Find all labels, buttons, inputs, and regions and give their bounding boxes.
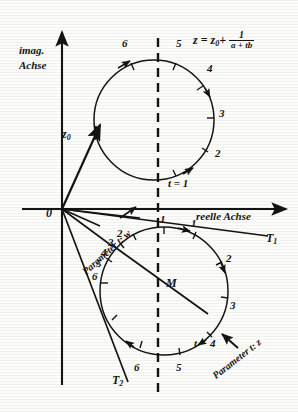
z0-label-subscript: 0	[67, 133, 71, 142]
formula-expression: z = z0+ 1 a + tb	[193, 30, 254, 50]
formula-fraction: 1 a + tb	[229, 30, 254, 50]
upper-tick-4: 4	[207, 63, 213, 74]
lower-tick-5-bottom: 5	[176, 362, 182, 373]
lower-tick-t-marker: t	[194, 338, 197, 349]
upper-tick-5: 5	[176, 38, 182, 49]
lower-tick-6-left: 6	[92, 271, 98, 282]
lower-tick-4-right: 4	[210, 338, 216, 349]
lower-tick-2-right: 2	[226, 253, 232, 264]
formula-equals: =	[201, 33, 208, 47]
upper-tick-6: 6	[122, 38, 128, 49]
tangent-t2-label: T2	[112, 374, 123, 388]
origin-label: 0	[46, 207, 52, 219]
upper-circle	[94, 60, 214, 180]
lower-tick-6-bottom: 6	[134, 362, 140, 373]
t2-label-subscript: 2	[119, 379, 123, 388]
t1-label-subscript: 1	[273, 237, 277, 246]
lower-tick-1b: 1	[191, 218, 197, 229]
parameter-z-arrow	[222, 334, 238, 348]
upper-tick-3: 3	[219, 108, 225, 119]
upper-circle-ticks	[131, 63, 214, 176]
formula-denominator: a + tb	[229, 41, 254, 50]
real-axis-label: reelle Achse	[196, 211, 251, 222]
formula-lhs: z	[193, 33, 198, 47]
formula-plus: +	[219, 33, 226, 47]
imaginary-axis-label-line2: Achse	[19, 60, 47, 71]
upper-tick-2: 2	[215, 148, 221, 159]
z0-vector-label: z0	[62, 128, 71, 142]
imaginary-axis-label-line1: imag.	[19, 45, 44, 56]
lower-tick-3-right: 3	[230, 300, 236, 311]
radius-line	[112, 245, 208, 314]
lower-tick-1a: 1	[160, 214, 166, 225]
figure-canvas: imag. Achse reelle Achse 0 z = z0+ 1 a +…	[0, 0, 298, 412]
upper-tick-t-equals-1: t = 1	[168, 178, 188, 189]
circle-center-label: M	[166, 277, 177, 289]
tangent-t1-label: T1	[266, 232, 277, 246]
